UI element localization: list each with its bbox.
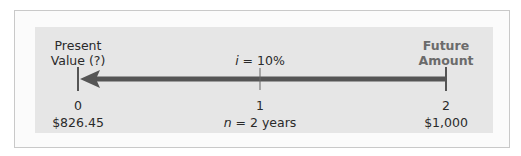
period-1-label: 1	[256, 98, 264, 113]
future-amount-label: Future Amount	[418, 38, 473, 68]
period-0-label: 0	[74, 98, 82, 113]
rate-value: = 10%	[239, 53, 285, 68]
present-label-line1: Present	[51, 38, 106, 53]
present-value-label: Present Value (?)	[51, 38, 106, 68]
duration-variable: n	[224, 115, 232, 130]
duration-value: = 2 years	[232, 115, 297, 130]
duration-label: n = 2 years	[224, 115, 297, 130]
future-label-line2: Amount	[418, 53, 473, 68]
present-value-amount: $826.45	[52, 115, 104, 130]
interest-rate-label: i = 10%	[235, 53, 285, 68]
present-label-line2: Value (?)	[51, 53, 106, 68]
timeline-arrow	[0, 0, 521, 156]
period-2-label: 2	[442, 98, 450, 113]
future-label-line1: Future	[418, 38, 473, 53]
future-value-amount: $1,000	[424, 115, 468, 130]
